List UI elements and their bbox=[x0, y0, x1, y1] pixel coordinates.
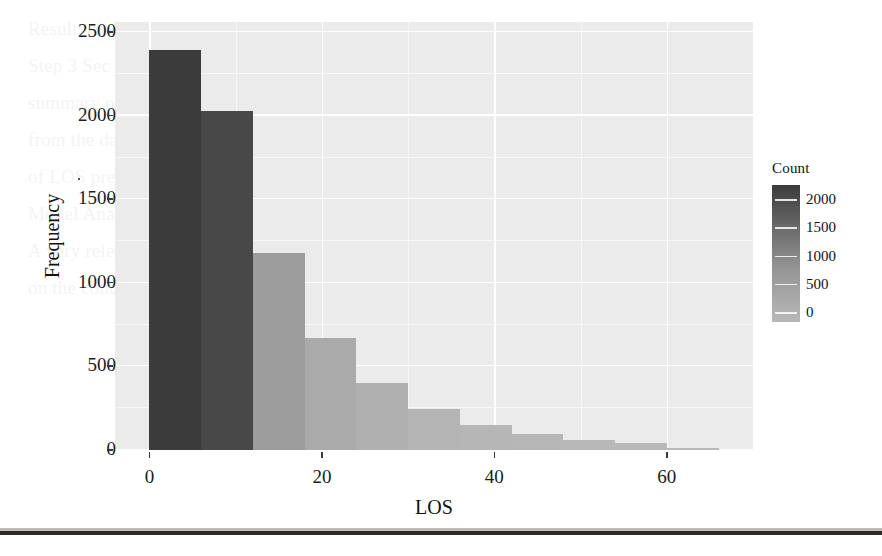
legend-title: Count bbox=[772, 160, 878, 177]
legend-tick-label: 2000 bbox=[806, 191, 836, 208]
histogram-figure: 05001000150020002500 0204060 LOS Frequen… bbox=[0, 0, 882, 556]
histogram-bar bbox=[460, 425, 512, 450]
plot-panel bbox=[115, 22, 753, 450]
y-axis-tick-mark bbox=[107, 31, 113, 33]
y-axis-title: Frequency bbox=[41, 194, 64, 278]
histogram-bar bbox=[615, 443, 667, 450]
histogram-bar bbox=[512, 434, 564, 450]
x-axis-tick-mark bbox=[666, 452, 668, 458]
y-axis-tick-mark bbox=[107, 365, 113, 367]
x-axis-tick-label: 60 bbox=[657, 466, 676, 488]
x-axis-tick-mark bbox=[149, 452, 151, 458]
page-rule bbox=[0, 531, 882, 535]
x-axis-tick-label: 20 bbox=[312, 466, 331, 488]
x-axis-tick-mark bbox=[321, 452, 323, 458]
histogram-bar bbox=[667, 448, 719, 450]
legend-tick-mark bbox=[775, 199, 797, 200]
x-axis-title: LOS bbox=[115, 496, 753, 519]
gridline-horizontal-minor bbox=[115, 73, 753, 74]
y-axis-tick-mark bbox=[107, 282, 113, 284]
y-axis-tick-mark bbox=[107, 449, 113, 451]
gridline-vertical bbox=[494, 22, 495, 450]
histogram-bar bbox=[253, 253, 305, 450]
histogram-bar bbox=[563, 440, 615, 450]
legend-tick-mark bbox=[775, 227, 797, 228]
x-axis-tick-label: 0 bbox=[145, 466, 155, 488]
legend-tick-label: 1500 bbox=[806, 219, 836, 236]
gridline-vertical bbox=[667, 22, 668, 450]
histogram-bar bbox=[149, 50, 201, 450]
stray-dot-artifact bbox=[78, 178, 80, 180]
x-axis-tick-mark bbox=[494, 452, 496, 458]
x-axis-tick-label: 40 bbox=[485, 466, 504, 488]
gridline-vertical-minor bbox=[581, 22, 582, 450]
legend: Count 2000150010005000 bbox=[770, 160, 878, 183]
legend-tick-label: 500 bbox=[806, 276, 829, 293]
gridline-horizontal bbox=[115, 31, 753, 32]
y-axis-tick-mark bbox=[107, 198, 113, 200]
legend-tick-label: 1000 bbox=[806, 247, 836, 264]
histogram-bar bbox=[356, 383, 408, 450]
legend-tick-mark bbox=[775, 256, 797, 257]
legend-colorbar bbox=[772, 185, 800, 322]
histogram-bar bbox=[408, 409, 460, 450]
legend-tick-mark bbox=[775, 284, 797, 285]
histogram-bar bbox=[201, 111, 253, 450]
histogram-bar bbox=[305, 338, 357, 450]
legend-tick-mark bbox=[775, 312, 797, 313]
legend-colorbar-wrap bbox=[772, 185, 800, 322]
y-axis-tick-mark bbox=[107, 115, 113, 117]
gridline-vertical-minor bbox=[408, 22, 409, 450]
legend-tick-label: 0 bbox=[806, 304, 814, 321]
